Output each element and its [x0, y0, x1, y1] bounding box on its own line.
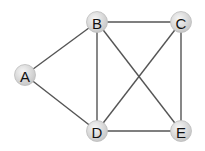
graph-diagram: ABCDE — [0, 0, 205, 151]
node-e: E — [171, 121, 192, 142]
node-d: D — [87, 121, 108, 142]
node-label: B — [92, 15, 102, 32]
node-c: C — [171, 12, 192, 33]
nodes-layer: ABCDE — [15, 12, 192, 142]
node-b: B — [87, 12, 108, 33]
node-label: A — [20, 68, 30, 85]
node-label: E — [176, 124, 186, 141]
edge-a-d — [25, 75, 97, 131]
node-label: D — [92, 124, 103, 141]
node-label: C — [176, 15, 187, 32]
edges-layer — [25, 22, 181, 131]
edge-a-b — [25, 22, 97, 75]
node-a: A — [15, 65, 36, 86]
